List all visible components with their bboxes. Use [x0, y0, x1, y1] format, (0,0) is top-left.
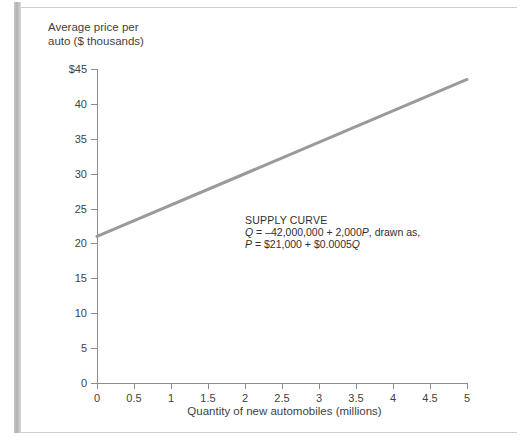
x-axis-title-text: Quantity of new automobiles (millions): [187, 405, 381, 417]
x-tick-label-10: 5: [464, 392, 470, 404]
y-tick-5: [91, 209, 97, 210]
x-tick-label-3: 1.5: [200, 392, 215, 404]
figure-page: Average price per auto ($ thousands) 051…: [0, 0, 523, 444]
annotation-equation-p: P = $21,000 + $0.0005Q: [245, 239, 420, 251]
y-tick-1: [91, 348, 97, 349]
y-tick-label-6: 30: [75, 168, 87, 180]
supply-curve-annotation: SUPPLY CURVE Q = –42,000,000 + 2,000P, d…: [245, 215, 420, 250]
x-tick-4: [245, 383, 246, 389]
y-tick-label-4: 20: [75, 237, 87, 249]
x-tick-2: [171, 383, 172, 389]
x-tick-5: [282, 383, 283, 389]
y-tick-label-5: 25: [75, 203, 87, 215]
x-tick-label-5: 2.5: [274, 392, 289, 404]
x-tick-label-9: 4.5: [422, 392, 437, 404]
x-tick-label-1: 0.5: [126, 392, 141, 404]
y-tick-9: [91, 69, 97, 70]
x-tick-label-6: 3: [316, 392, 322, 404]
annotation-q-symbol: Q: [245, 226, 253, 238]
annotation-q-var: P: [362, 226, 369, 238]
y-tick-7: [91, 139, 97, 140]
x-tick-9: [430, 383, 431, 389]
y-tick-label-2: 10: [75, 307, 87, 319]
x-tick-1: [134, 383, 135, 389]
x-tick-3: [208, 383, 209, 389]
annotation-p-var: Q: [352, 238, 360, 250]
x-tick-label-8: 4: [390, 392, 396, 404]
annotation-p-symbol: P: [245, 238, 252, 250]
y-tick-3: [91, 278, 97, 279]
supply-curve-chart: Average price per auto ($ thousands) 051…: [0, 0, 523, 444]
x-tick-6: [319, 383, 320, 389]
annotation-q-body: = –42,000,000 + 2,000: [253, 226, 362, 238]
y-tick-2: [91, 313, 97, 314]
y-tick-label-1: 5: [81, 342, 87, 354]
x-tick-8: [393, 383, 394, 389]
x-tick-7: [356, 383, 357, 389]
y-tick-6: [91, 174, 97, 175]
y-tick-label-9: $45: [69, 63, 87, 75]
x-tick-label-4: 2: [242, 392, 248, 404]
x-tick-0: [97, 383, 98, 389]
annotation-p-body: = $21,000 + $0.0005: [252, 238, 352, 250]
x-tick-label-0: 0: [94, 392, 100, 404]
y-axis-title: Average price per auto ($ thousands): [48, 20, 144, 48]
y-tick-label-0: 0: [81, 377, 87, 389]
annotation-q-suffix: , drawn as,: [369, 226, 420, 238]
x-tick-label-7: 3.5: [348, 392, 363, 404]
y-tick-8: [91, 104, 97, 105]
y-tick-label-3: 15: [75, 272, 87, 284]
x-tick-10: [467, 383, 468, 389]
y-tick-4: [91, 243, 97, 244]
y-tick-label-7: 35: [75, 133, 87, 145]
x-axis-title: Quantity of new automobiles (millions): [0, 405, 523, 417]
y-tick-label-8: 40: [75, 98, 87, 110]
x-tick-label-2: 1: [168, 392, 174, 404]
